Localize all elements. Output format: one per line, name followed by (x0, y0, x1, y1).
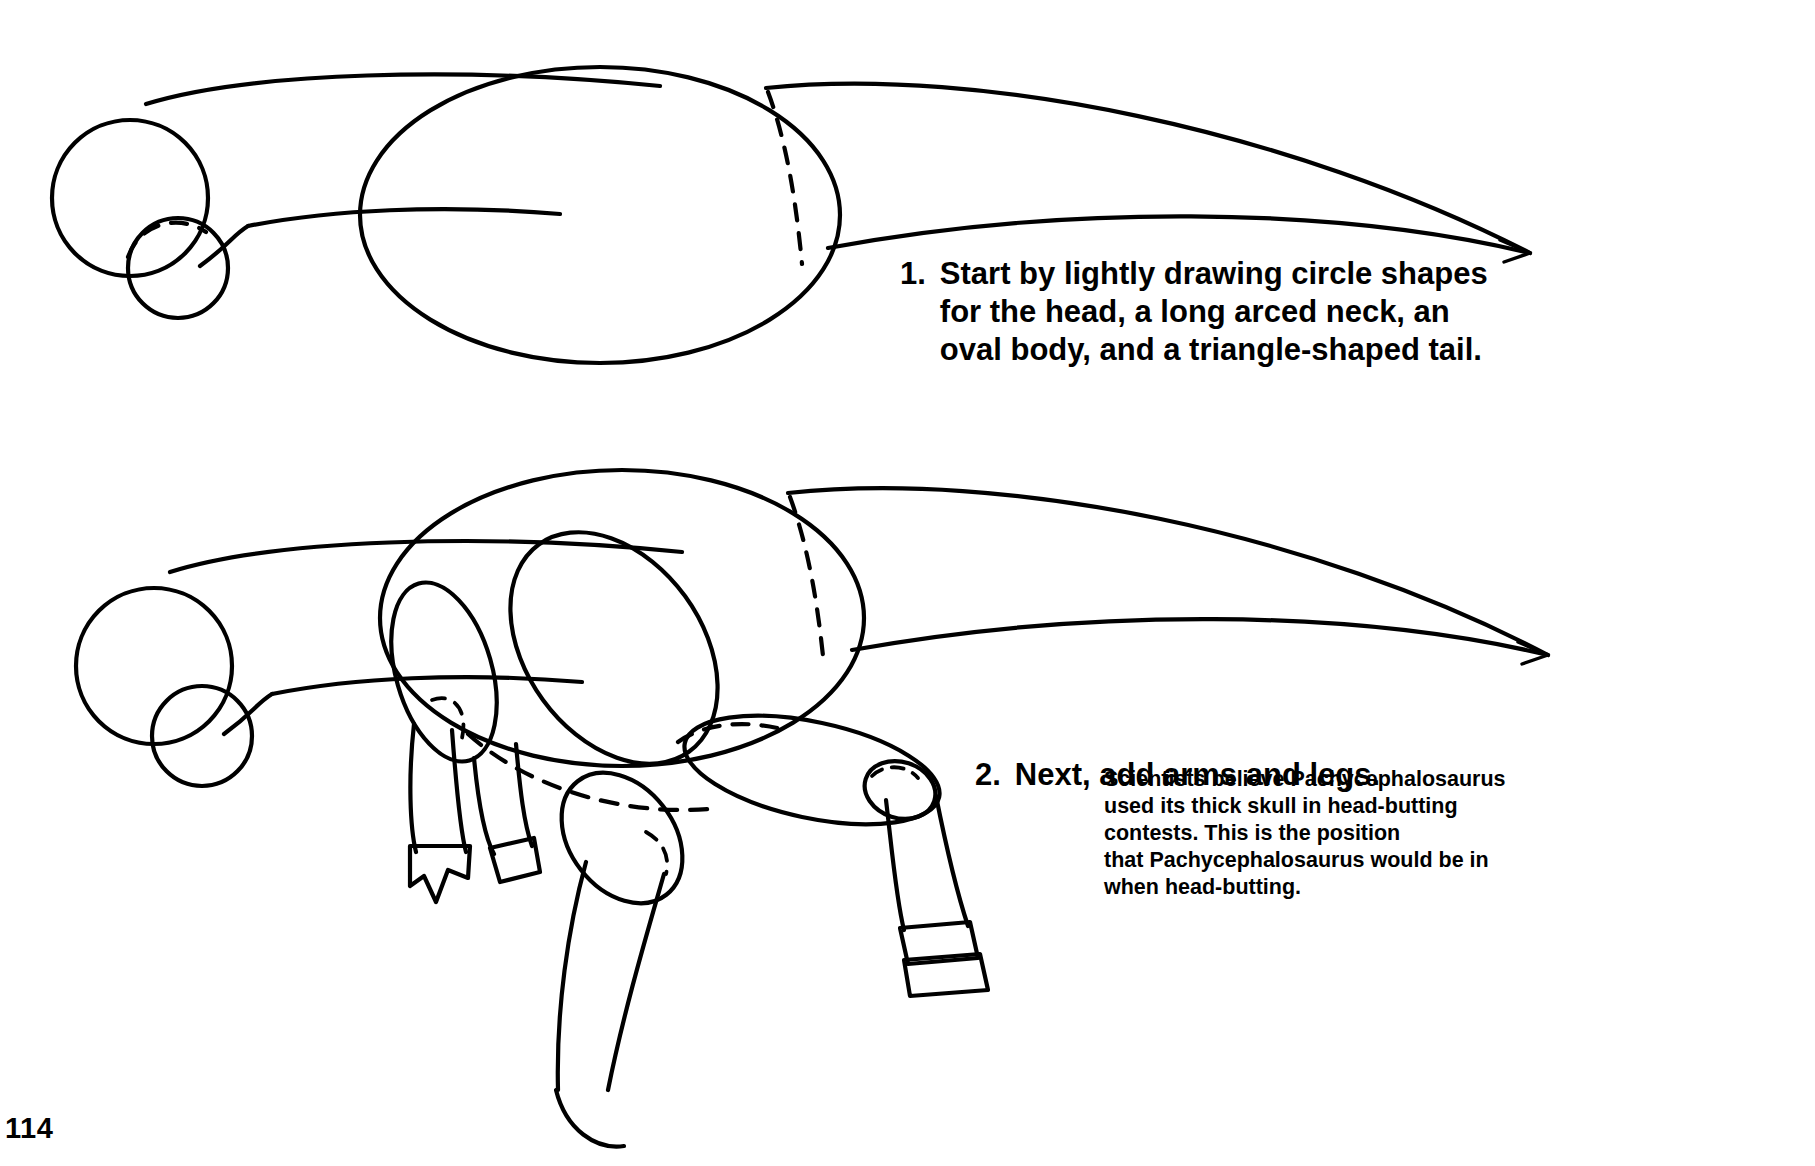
drawing-instruction-page: 1. Start by lightly drawing circle shape… (0, 0, 1815, 1166)
step-2-number: 2. (975, 756, 1001, 794)
step-1-text: Start by lightly drawing circle shapes f… (940, 255, 1488, 369)
step-2-figure (0, 0, 1815, 1166)
page-number: 114 (5, 1112, 53, 1145)
step-1-figure (0, 0, 1815, 1166)
instruction-step-1: 1. Start by lightly drawing circle shape… (900, 255, 1500, 369)
fact-note: Scientists believe Pachycephalosaurus us… (1104, 766, 1534, 901)
step-1-number: 1. (900, 255, 926, 293)
